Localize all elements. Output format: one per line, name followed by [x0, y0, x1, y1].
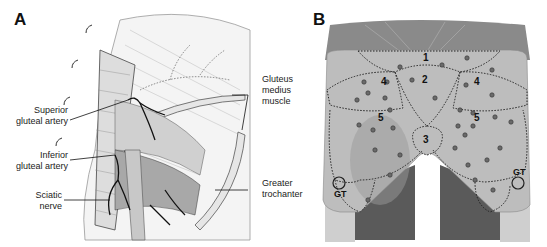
zone-label-2: 2	[422, 74, 428, 85]
landmark-gt-right: GT	[513, 167, 526, 177]
label-superior-gluteal-artery: Superior gluteal artery	[10, 105, 68, 127]
zone-label-4-right: 4	[474, 76, 480, 87]
zone-label-5-right: 5	[474, 112, 480, 123]
gluteal-zones-illustration	[275, 0, 547, 247]
zone-label-3: 3	[423, 134, 429, 145]
zone-label-4-left: 4	[381, 76, 387, 87]
zone-label-5-left: 5	[378, 112, 384, 123]
label-inferior-gluteal-artery: Inferior gluteal artery	[4, 150, 68, 172]
label-sciatic-nerve: Sciatic nerve	[10, 190, 62, 212]
zone-label-1: 1	[423, 52, 429, 63]
panel-a-anatomy: A	[0, 0, 275, 247]
landmark-gt-left: GT	[334, 189, 347, 199]
panel-b-zones: B	[275, 0, 547, 247]
